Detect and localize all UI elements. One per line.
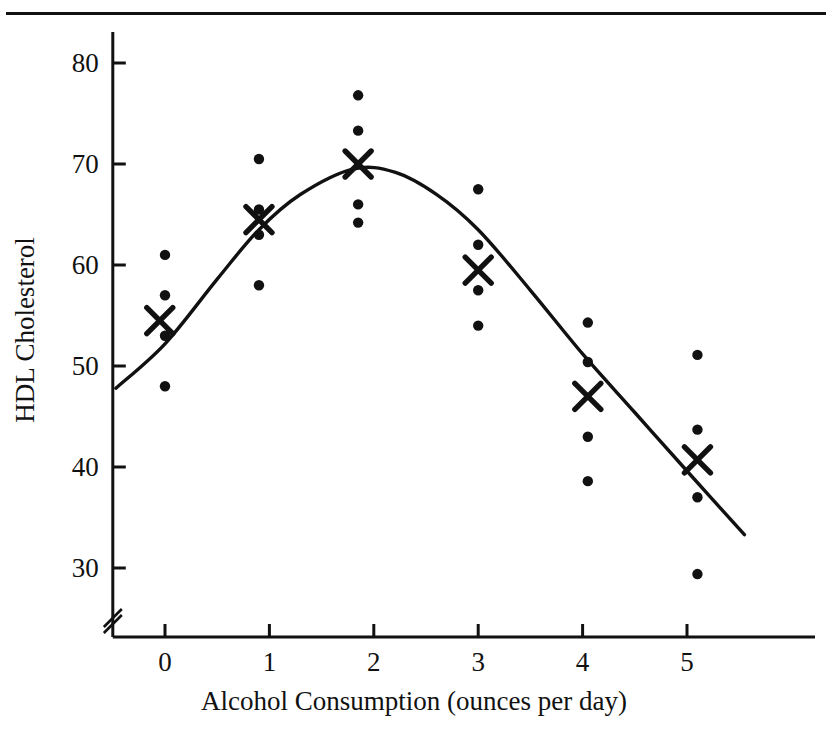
x-axis-tick-label: 5	[680, 649, 694, 676]
x-axis-title: Alcohol Consumption (ounces per day)	[0, 686, 828, 717]
data-point	[473, 240, 483, 250]
x-axis-tick-label: 2	[367, 649, 381, 676]
y-axis-tick-label: 80	[72, 50, 99, 77]
chart-page: HDL Cholesterol Alcohol Consumption (oun…	[0, 0, 828, 743]
data-point	[353, 90, 363, 100]
data-point	[254, 154, 264, 164]
scatter-plot-figure	[0, 0, 828, 743]
x-axis-tick-label: 1	[263, 649, 277, 676]
data-point	[160, 381, 170, 391]
data-point	[692, 350, 702, 360]
data-point	[692, 492, 702, 502]
data-point	[692, 569, 702, 579]
y-axis-tick-label: 40	[72, 454, 99, 481]
data-point	[254, 280, 264, 290]
y-axis-tick-label: 70	[72, 151, 99, 178]
data-point	[254, 230, 264, 240]
data-point	[353, 217, 363, 227]
x-axis-tick-label: 0	[158, 649, 172, 676]
data-point	[583, 432, 593, 442]
y-axis-title: HDL Cholesterol	[10, 237, 41, 423]
y-axis-tick-label: 50	[72, 353, 99, 380]
data-point	[353, 125, 363, 135]
data-point	[473, 320, 483, 330]
y-axis-tick-label: 30	[72, 555, 99, 582]
data-point	[692, 424, 702, 434]
x-axis-tick-label: 3	[471, 649, 485, 676]
data-point	[160, 290, 170, 300]
x-axis-tick-label: 4	[576, 649, 590, 676]
data-point	[583, 476, 593, 486]
fitted-curve	[116, 167, 745, 534]
y-axis-tick-label: 60	[72, 252, 99, 279]
data-point	[473, 184, 483, 194]
data-point	[160, 250, 170, 260]
data-point	[583, 357, 593, 367]
data-point	[583, 317, 593, 327]
data-point	[353, 199, 363, 209]
data-point	[473, 285, 483, 295]
